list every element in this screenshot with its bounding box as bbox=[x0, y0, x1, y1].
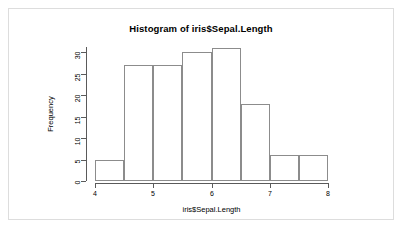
y-tick-mark bbox=[81, 52, 86, 53]
y-tick-mark bbox=[81, 181, 86, 182]
y-tick-label-wrap: 25 bbox=[64, 69, 78, 79]
x-tick-label: 6 bbox=[204, 190, 220, 197]
y-tick-mark bbox=[81, 95, 86, 96]
y-axis-line bbox=[86, 47, 87, 181]
histogram-bar bbox=[299, 155, 328, 181]
y-tick-label: 5 bbox=[75, 160, 82, 164]
y-tick-mark bbox=[81, 160, 86, 161]
x-tick-label: 5 bbox=[145, 190, 161, 197]
histogram-bar bbox=[182, 52, 211, 181]
y-tick-label-wrap: 10 bbox=[64, 133, 78, 143]
x-tick-label: 7 bbox=[262, 190, 278, 197]
x-tick-label: 8 bbox=[320, 190, 336, 197]
y-tick-mark bbox=[81, 74, 86, 75]
x-axis-title: iris$Sepal.Length bbox=[95, 205, 328, 214]
y-tick-label: 0 bbox=[75, 181, 82, 185]
histogram-bar bbox=[241, 104, 270, 181]
histogram-bar bbox=[270, 155, 299, 181]
y-tick-label: 15 bbox=[75, 117, 82, 125]
x-tick-mark bbox=[270, 183, 271, 188]
y-tick-mark bbox=[81, 138, 86, 139]
y-axis-title: Frequency bbox=[47, 96, 55, 131]
histogram-bar bbox=[124, 65, 153, 181]
y-tick-label-wrap: 0 bbox=[64, 176, 78, 186]
y-tick-label-wrap: 30 bbox=[64, 47, 78, 57]
y-axis-title-wrap: Frequency bbox=[44, 47, 58, 181]
y-tick-label-wrap: 5 bbox=[64, 155, 78, 165]
x-tick-mark bbox=[328, 183, 329, 188]
y-tick-mark bbox=[81, 117, 86, 118]
y-tick-label-wrap: 20 bbox=[64, 90, 78, 100]
plot-area: 051015202530 45678 iris$Sepal.Length Fre… bbox=[0, 0, 404, 236]
y-tick-label: 10 bbox=[75, 138, 82, 146]
x-tick-mark bbox=[153, 183, 154, 188]
y-tick-label: 20 bbox=[75, 95, 82, 103]
x-tick-mark bbox=[212, 183, 213, 188]
y-tick-label-wrap: 15 bbox=[64, 112, 78, 122]
y-tick-label: 30 bbox=[75, 52, 82, 60]
y-tick-label: 25 bbox=[75, 74, 82, 82]
histogram-bar bbox=[153, 65, 182, 181]
histogram-bar bbox=[212, 48, 241, 181]
x-tick-mark bbox=[95, 183, 96, 188]
x-tick-label: 4 bbox=[87, 190, 103, 197]
histogram-bar bbox=[95, 160, 124, 181]
